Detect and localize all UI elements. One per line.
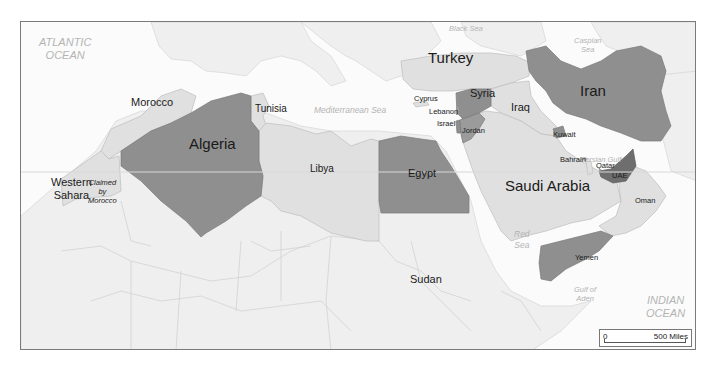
label-libya: Libya <box>310 164 334 174</box>
black-sea-label: Black Sea <box>449 25 483 33</box>
atlantic-ocean-label: ATLANTIC OCEAN <box>39 36 91 62</box>
label-iran: Iran <box>580 83 606 98</box>
scale-bar: 0 500 Miles <box>599 329 692 347</box>
label-qatar: Qatar <box>596 162 615 170</box>
label-algeria: Algeria <box>189 136 236 151</box>
caspian-sea-label: Caspian Sea <box>574 36 602 54</box>
scale-line <box>604 339 686 343</box>
red-sea-label: Red Sea <box>514 229 530 251</box>
gulf-of-aden-label: Gulf of Aden <box>574 285 596 303</box>
label-claimed-by-morocco: Claimed by Morocco <box>88 178 117 205</box>
indian-ocean-label: INDIAN OCEAN <box>646 294 685 320</box>
label-cyprus: Cyprus <box>414 95 438 103</box>
label-yemen: Yemen <box>575 254 598 262</box>
label-uae: UAE <box>612 172 627 180</box>
label-jordan: Jordan <box>462 127 485 135</box>
label-morocco: Morocco <box>131 97 173 108</box>
label-kuwait: Kuwait <box>553 131 576 139</box>
map-frame: ATLANTIC OCEAN Mediterranean Sea Black S… <box>20 21 696 350</box>
label-israel: Israel <box>437 120 455 128</box>
label-syria: Syria <box>470 88 495 99</box>
label-tunisia: Tunisia <box>255 104 287 114</box>
label-oman: Oman <box>635 197 655 205</box>
label-egypt: Egypt <box>408 168 436 179</box>
label-western-sahara: Western Sahara <box>51 176 92 202</box>
label-sudan: Sudan <box>410 274 442 285</box>
mediterranean-sea-label: Mediterranean Sea <box>314 106 386 115</box>
label-turkey: Turkey <box>428 50 473 65</box>
label-bahrain: Bahrain <box>560 156 586 164</box>
label-lebanon: Lebanon <box>429 108 458 116</box>
label-saudi-arabia: Saudi Arabia <box>505 178 590 193</box>
label-iraq: Iraq <box>511 102 530 113</box>
